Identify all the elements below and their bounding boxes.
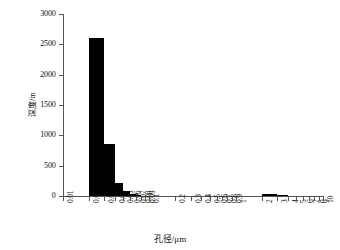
x-tick-mark <box>309 197 310 201</box>
y-axis-title: 深度/m <box>25 75 36 135</box>
x-tick-mark <box>262 197 263 201</box>
x-tick-mark <box>115 197 116 201</box>
x-tick-mark <box>314 197 315 201</box>
x-tick-mark <box>136 197 137 201</box>
x-tick-mark <box>201 197 202 201</box>
bar <box>104 144 115 196</box>
x-axis-line <box>63 196 324 197</box>
x-tick-label: 10 <box>326 196 335 203</box>
x-tick-mark <box>232 197 233 201</box>
y-tick-mark <box>59 14 63 15</box>
bar <box>262 194 277 196</box>
x-tick-mark <box>175 197 176 201</box>
x-tick-mark <box>217 197 218 201</box>
x-tick-mark <box>288 197 289 201</box>
x-tick-label: 0.4 <box>204 194 213 203</box>
x-tick-mark <box>104 197 105 201</box>
bar <box>89 38 104 196</box>
x-tick-mark <box>236 197 237 201</box>
x-tick-label: 0.01 <box>66 191 75 203</box>
x-tick-mark <box>277 197 278 201</box>
bar <box>136 195 141 196</box>
pore-size-distribution-chart: 050010001500200025003000 0.010.020.030.0… <box>0 0 340 250</box>
x-tick-mark <box>222 197 223 201</box>
bar <box>115 183 123 196</box>
y-tick-label: 500 <box>23 161 56 170</box>
y-tick-mark <box>59 105 63 106</box>
x-tick-mark <box>296 197 297 201</box>
x-tick-mark <box>303 197 304 201</box>
y-tick-label: 2500 <box>23 39 56 48</box>
x-tick-mark <box>130 197 131 201</box>
x-tick-mark <box>141 197 142 201</box>
y-tick-label: 0 <box>23 191 56 200</box>
bar <box>277 195 288 196</box>
y-tick-mark <box>59 135 63 136</box>
x-tick-mark <box>145 197 146 201</box>
x-tick-mark <box>149 197 150 201</box>
x-tick-label: 0.1 <box>152 194 161 203</box>
x-axis-title: 孔径/μm <box>0 232 340 245</box>
y-tick-mark <box>59 44 63 45</box>
x-tick-mark <box>123 197 124 201</box>
x-tick-label: 2 <box>265 199 274 203</box>
y-tick-label: 3000 <box>23 9 56 18</box>
x-tick-mark <box>191 197 192 201</box>
y-tick-mark <box>59 75 63 76</box>
x-tick-mark <box>323 197 324 201</box>
x-tick-mark <box>319 197 320 201</box>
x-tick-label: 1 <box>239 199 248 203</box>
x-tick-label: 0.2 <box>178 194 187 203</box>
y-axis-line <box>63 14 64 197</box>
x-tick-mark <box>89 197 90 201</box>
y-tick-mark <box>59 166 63 167</box>
x-tick-mark <box>210 197 211 201</box>
x-tick-mark <box>227 197 228 201</box>
y-tick-mark <box>59 196 63 197</box>
bar <box>123 191 130 196</box>
x-tick-mark <box>63 197 64 201</box>
